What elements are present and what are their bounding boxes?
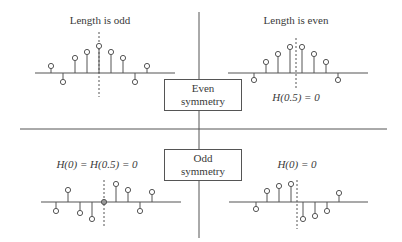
stem-marker <box>276 183 281 188</box>
annotation-h05-zero: H(0.5) = 0 <box>272 91 319 103</box>
stem-marker <box>48 63 53 68</box>
stem-marker <box>137 208 142 213</box>
even-box-line1: Even <box>165 82 241 95</box>
stem-plot-top-right <box>228 38 368 89</box>
stem-plots <box>35 32 368 229</box>
stem-plot-bottom-right <box>229 180 368 229</box>
odd-box-line1: Odd <box>165 152 241 165</box>
stem-marker <box>108 49 113 54</box>
stem-marker <box>336 190 341 195</box>
stem-marker <box>125 187 130 192</box>
stem-marker <box>251 77 256 82</box>
symmetry-diagram <box>0 0 402 242</box>
stem-marker <box>264 188 269 193</box>
even-box-line2: symmetry <box>165 95 241 108</box>
stem-marker <box>300 216 305 221</box>
stem-marker <box>323 59 328 64</box>
even-symmetry-box: Even symmetry <box>164 79 242 111</box>
stem-marker <box>53 208 58 213</box>
stem-marker <box>77 210 82 215</box>
stem-marker <box>311 51 316 56</box>
stem-marker <box>96 43 101 48</box>
stem-plot-bottom-left <box>41 180 181 228</box>
stem-marker <box>287 44 292 49</box>
stem-marker <box>120 55 125 60</box>
stem-marker <box>60 79 65 84</box>
stem-marker <box>65 187 70 192</box>
stem-marker <box>253 206 258 211</box>
stem-marker <box>275 51 280 56</box>
stem-marker <box>263 59 268 64</box>
title-length-odd: Length is odd <box>70 14 131 26</box>
title-length-even: Length is even <box>264 14 329 26</box>
annotation-h0-h05-zero: H(0) = H(0.5) = 0 <box>56 158 137 170</box>
stem-marker <box>89 216 94 221</box>
stem-marker <box>312 213 317 218</box>
stem-marker <box>149 189 154 194</box>
annotation-h0-zero: H(0) = 0 <box>277 158 316 170</box>
stem-marker <box>299 44 304 49</box>
stem-marker <box>335 77 340 82</box>
stem-marker <box>324 208 329 213</box>
stem-plot-top-left <box>35 32 175 97</box>
stem-marker <box>144 63 149 68</box>
stem-marker <box>288 181 293 186</box>
stem-marker <box>113 181 118 186</box>
odd-symmetry-box: Odd symmetry <box>164 149 242 181</box>
stem-marker <box>72 55 77 60</box>
stem-marker <box>84 49 89 54</box>
stem-marker <box>101 199 106 204</box>
odd-box-line2: symmetry <box>165 165 241 178</box>
stem-marker <box>132 79 137 84</box>
